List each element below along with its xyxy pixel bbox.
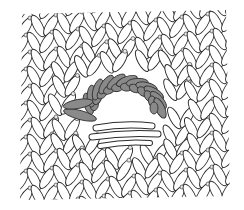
knitting-diagram [0, 0, 244, 210]
illustration [0, 0, 244, 210]
horizontal-strands [92, 125, 158, 146]
